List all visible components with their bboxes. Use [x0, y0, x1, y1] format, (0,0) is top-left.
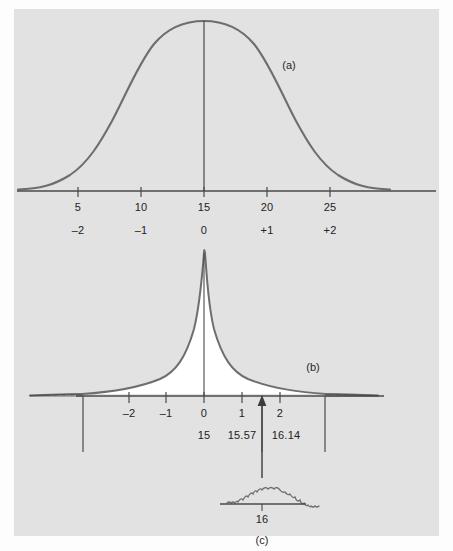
panel-b-z-label-3: 1 — [239, 407, 245, 419]
panel-a-z-label-1: –1 — [135, 224, 148, 236]
panel-c-tag: (c) — [256, 534, 269, 546]
panel-a-z-label-2: 0 — [201, 224, 207, 236]
figure-panel-background: 5 10 15 20 25 –2 –1 0 +1 +2 (a) –2 –1 0 … — [14, 9, 439, 536]
panel-a-raw-label-2: 15 — [198, 201, 211, 213]
figure-root: 5 10 15 20 25 –2 –1 0 +1 +2 (a) –2 –1 0 … — [0, 0, 453, 551]
panel-b-raw-label-2: 16.14 — [272, 429, 301, 441]
panel-a-raw-label-0: 5 — [75, 201, 81, 213]
panel-b-group — [30, 250, 384, 478]
panel-a-raw-label-4: 25 — [324, 201, 337, 213]
panel-b-z-label-4: 2 — [277, 407, 283, 419]
panel-b-raw-label-0: 15 — [198, 429, 211, 441]
statistics-figure-svg — [14, 9, 439, 536]
panel-a-z-label-0: –2 — [72, 224, 85, 236]
panel-b-observed-mean-arrow — [258, 395, 267, 478]
panel-a-raw-label-3: 20 — [261, 201, 274, 213]
panel-a-group — [17, 21, 436, 197]
panel-b-z-label-0: –2 — [123, 407, 136, 419]
panel-b-raw-label-1: 15.57 — [228, 429, 257, 441]
panel-c-group — [220, 488, 319, 512]
panel-a-raw-label-1: 10 — [135, 201, 148, 213]
panel-a-z-label-4: +2 — [324, 224, 337, 236]
panel-a-z-label-3: +1 — [261, 224, 274, 236]
panel-a-tick-marks — [78, 187, 330, 197]
panel-b-z-label-1: –1 — [160, 407, 173, 419]
panel-b-z-label-2: 0 — [201, 407, 207, 419]
panel-a-tag: (a) — [282, 59, 295, 71]
panel-c-center-label: 16 — [256, 513, 269, 525]
panel-b-tag: (b) — [306, 361, 319, 373]
